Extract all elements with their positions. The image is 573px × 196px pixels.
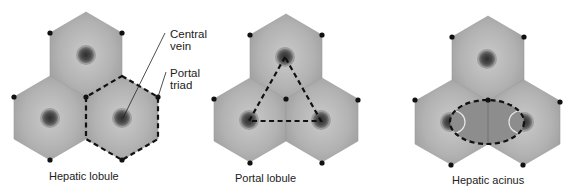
portal-triad-callout-line (158, 72, 166, 97)
portal-triad-label-line1: Portal (170, 67, 200, 79)
portal-triad-label: Portal triad (170, 67, 200, 91)
panel-hepatic-acinus (412, 16, 562, 168)
central-vein-label: Central vein (170, 28, 207, 52)
panel-hepatic-lobule (11, 12, 166, 163)
portal-triad-label-line2: triad (170, 79, 200, 91)
central-vein-label-line1: Central (170, 28, 207, 40)
central-vein-core (479, 51, 495, 67)
central-vein-label-line2: vein (170, 40, 207, 52)
central-vein-core (78, 47, 94, 63)
caption-hepatic-lobule: Hepatic lobule (49, 170, 119, 182)
caption-hepatic-acinus: Hepatic acinus (452, 174, 524, 186)
central-vein-core (114, 110, 130, 126)
caption-portal-lobule: Portal lobule (235, 172, 296, 184)
panel-portal-lobule (211, 14, 360, 166)
liver-lobule-diagram (0, 0, 573, 196)
central-vein-core (42, 110, 58, 126)
